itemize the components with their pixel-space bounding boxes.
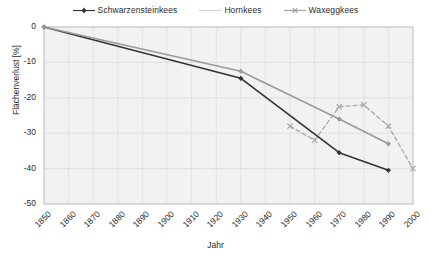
glacier-area-loss-chart: Schwarzensteinkees Hornkees Waxeggkees F… bbox=[0, 0, 431, 260]
y-axis-tick-label: -10 bbox=[4, 56, 36, 66]
y-axis-title: Flächenverlust [%] bbox=[11, 20, 21, 140]
y-axis-tick-label: -50 bbox=[4, 198, 36, 208]
x-axis-title: Jahr bbox=[0, 240, 431, 250]
y-axis-tick-label: 0 bbox=[4, 21, 36, 31]
y-axis-tick-label: -40 bbox=[4, 163, 36, 173]
y-axis-tick-label: -20 bbox=[4, 92, 36, 102]
plot-background bbox=[44, 27, 413, 204]
y-axis-tick-label: -30 bbox=[4, 127, 36, 137]
